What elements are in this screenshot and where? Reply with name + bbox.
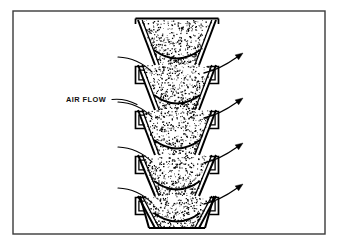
stipple-dot [156,166,157,167]
stipple-dot [180,163,181,164]
stipple-dot [176,139,177,140]
stipple-dot [173,128,174,129]
stipple-dot [191,140,192,141]
stipple-dot [187,199,188,200]
stipple-dot [175,194,176,195]
stipple-dot [162,34,163,35]
stipple-dot [163,93,164,94]
stipple-dot [194,80,195,81]
stipple-dot [165,80,166,81]
stipple-dot [175,182,176,183]
stipple-dot [159,191,160,192]
stipple-dot [187,172,188,173]
stipple-dot [187,137,188,138]
stipple-dot [163,116,164,117]
stipple-dot [161,95,162,96]
stipple-dot [182,101,183,102]
stipple-dot [198,33,199,34]
stipple-dot [184,193,185,194]
stipple-dot [181,144,182,145]
stipple-dot [153,171,154,172]
stipple-dot [207,66,208,67]
stipple-dot [160,71,161,72]
stipple-dot [156,198,157,199]
stipple-dot [163,198,164,199]
stipple-dot [175,187,176,188]
stipple-dot [202,35,203,36]
stipple-dot [179,141,180,142]
stipple-dot [176,108,177,109]
stipple-dot [179,37,180,38]
stipple-dot [167,112,168,113]
stipple-dot [164,66,165,67]
stipple-dot [208,67,209,68]
stipple-dot [176,164,177,165]
stipple-dot [162,72,163,73]
stipple-dot [168,167,169,168]
stipple-dot [174,100,175,101]
stipple-dot [178,181,179,182]
stipple-dot [186,155,187,156]
stipple-dot [194,202,195,203]
stipple-dot [168,216,169,217]
stipple-dot [161,164,162,165]
stipple-dot [164,125,165,126]
stipple-dot [176,166,177,167]
stipple-dot [192,203,193,204]
stipple-dot [197,30,198,31]
stipple-dot [158,178,159,179]
stipple-dot [183,126,184,127]
stipple-dot [194,103,195,104]
stipple-dot [152,125,153,126]
stipple-dot [190,98,191,99]
stipple-dot [166,91,167,92]
stipple-dot [181,37,182,38]
stipple-dot [171,208,172,209]
stipple-dot [178,51,179,52]
stipple-dot [199,73,200,74]
stipple-dot [187,206,188,207]
stipple-dot [173,35,174,36]
stipple-dot [191,224,192,225]
stipple-dot [170,72,171,73]
stipple-dot [171,53,172,54]
stipple-dot [187,21,188,22]
stipple-dot [154,206,155,207]
stipple-dot [164,177,165,178]
stipple-dot [176,80,177,81]
stipple-dot [192,85,193,86]
stipple-dot [187,123,188,124]
stipple-dot [180,178,181,179]
stipple-dot [195,93,196,94]
stipple-dot [174,49,175,50]
stipple-dot [198,22,199,23]
stipple-dot [180,59,181,60]
stipple-dot [173,151,174,152]
stipple-dot [182,225,183,226]
stipple-dot [178,174,179,175]
stipple-dot [181,121,182,122]
stipple-dot [199,83,200,84]
stipple-dot [201,34,202,35]
stipple-dot [186,93,187,94]
stipple-dot [174,89,175,90]
stipple-dot [182,108,183,109]
stipple-dot [156,36,157,37]
stipple-dot [199,44,200,45]
stipple-dot [152,65,153,66]
stipple-dot [204,119,205,120]
stipple-dot [202,170,203,171]
stipple-dot [185,206,186,207]
stipple-dot [187,171,188,172]
stipple-dot [194,208,195,209]
stipple-dot [175,111,176,112]
stipple-dot [190,137,191,138]
stipple-dot [196,115,197,116]
stipple-dot [158,79,159,80]
stipple-dot [151,118,152,119]
stipple-dot [191,135,192,136]
stipple-dot [156,139,157,140]
stipple-dot [172,68,173,69]
stipple-dot [192,80,193,81]
stipple-dot [196,90,197,91]
